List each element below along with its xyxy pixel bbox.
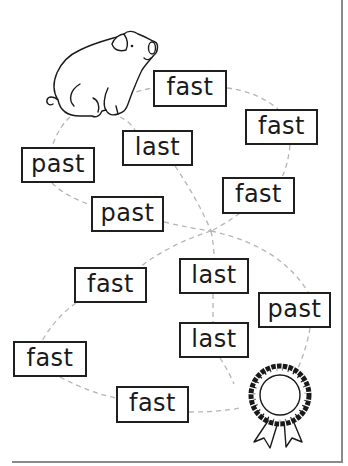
word-box-fast: fast [13,341,87,377]
word-box-fast: fast [74,267,147,303]
word-box-last: last [122,130,193,166]
word-box-past: past [91,196,164,232]
word-box-fast: fast [116,386,189,423]
word-box-last: last [179,258,249,294]
word-box-past: past [258,292,331,328]
word-box-past: past [21,147,95,183]
word-box-fast: fast [245,109,318,145]
word-box-fast: fast [153,70,227,107]
word-box-last: last [179,322,249,358]
word-box-fast: fast [222,177,295,214]
